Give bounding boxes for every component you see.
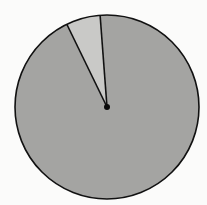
- center-dot: [104, 104, 110, 110]
- pie-chart: [0, 0, 207, 205]
- pie-chart-canvas: [0, 0, 207, 205]
